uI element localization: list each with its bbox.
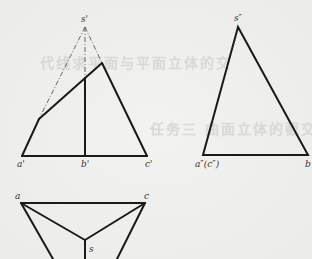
diagram-page: 代线求平面与平面立体的交 任务三 曲面立体的截交线 s' a' b' c' s″… [0, 0, 312, 259]
front-edge-c-lower [102, 63, 147, 156]
label-c: c [144, 191, 149, 201]
side-view: s″ a″(c″) b [195, 13, 311, 169]
front-edge-sc-removed [85, 27, 102, 63]
label-c-prime: c' [145, 159, 153, 169]
label-s: s [89, 244, 94, 254]
label-a-prime: a' [17, 159, 25, 169]
label-s-double-prime: s″ [234, 13, 243, 23]
label-s-prime: s' [81, 14, 88, 24]
front-view: s' a' b' c' [17, 14, 153, 169]
label-b-prime: b' [81, 159, 89, 169]
side-triangle [203, 27, 308, 155]
label-a-c-double-prime: a″(c″) [195, 159, 220, 169]
front-cut-line [39, 63, 102, 119]
label-b-double-prime: b [305, 159, 311, 169]
front-edge-a-lower [22, 119, 39, 156]
label-a: a [15, 191, 20, 201]
front-edge-sa-removed [39, 27, 85, 119]
projection-drawing: s' a' b' c' s″ a″(c″) b a c s [0, 0, 312, 259]
top-view: a c s [15, 191, 149, 259]
